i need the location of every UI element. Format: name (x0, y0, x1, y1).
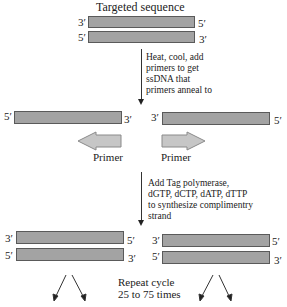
split-arrows-left-icon (53, 275, 86, 301)
split-arrows-right-icon (199, 275, 232, 301)
dna-strand (16, 231, 124, 244)
step-line: dGTP, dCTP, dATP, dTTP (148, 189, 253, 200)
primer-arrow-left-icon (78, 132, 121, 150)
strand-end-label: 5′ (5, 250, 13, 261)
strand-end-label: 5′ (272, 236, 280, 247)
dna-strand (16, 248, 124, 261)
repeat-line: Repeat cycle (118, 276, 181, 288)
repeat-line: 25 to 75 times (118, 288, 181, 300)
strand-end-label: 3′ (128, 253, 136, 264)
step-line: to synthesize complimentry (148, 200, 253, 211)
primer-label-right: Primer (161, 151, 191, 163)
dna-strand (162, 251, 270, 264)
step-line: strand (148, 211, 253, 222)
dna-strand (162, 234, 270, 247)
strand-end-label: 3′ (274, 255, 282, 266)
strand-end-label: 3′ (5, 233, 13, 244)
strand-end-label: 5′ (127, 235, 135, 246)
primer-arrow-right-icon (162, 132, 205, 150)
step-line: Add Tag polymerase, (148, 178, 253, 189)
down-arrow-icon (138, 220, 144, 226)
repeat-cycle-text: Repeat cycle 25 to 75 times (118, 276, 181, 300)
step-polymerase-text: Add Tag polymerase, dGTP, dCTP, dATP, dT… (148, 178, 253, 222)
strand-end-label: 5′ (152, 251, 160, 262)
strand-end-label: 3′ (152, 235, 160, 246)
primer-label-left: Primer (93, 151, 123, 163)
process-arrow-line (141, 172, 142, 222)
